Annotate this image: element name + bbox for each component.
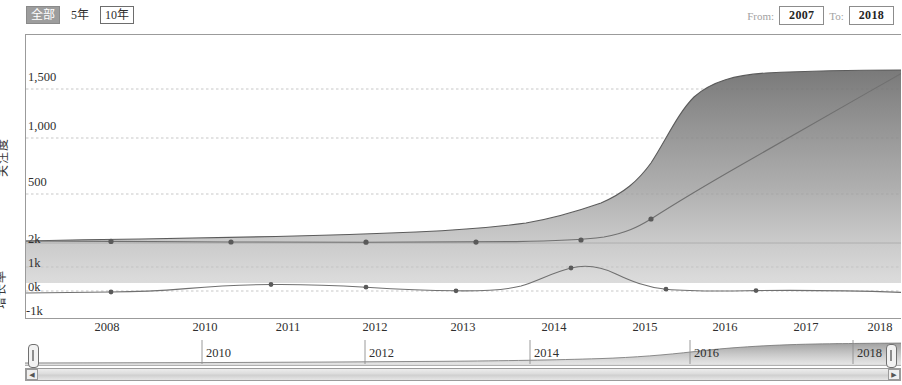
brush-label-2012: 2012 [369,346,394,361]
lower-y-axis-title: 增长率 [0,270,9,309]
lower-ytick-2k: 2k [28,232,41,247]
brush-label-2010: 2010 [206,346,231,361]
to-year-input[interactable]: 2018 [849,6,894,25]
xtick-2018: 2018 [868,320,893,335]
to-label: To: [829,10,844,22]
time-range-brush[interactable]: 2010 2012 2014 2016 2018 [25,340,901,366]
chart-canvas [26,35,901,319]
from-year-input[interactable]: 2007 [779,6,824,25]
lower-ytick-0k: 0k [28,280,41,295]
brush-label-2016: 2016 [694,346,719,361]
from-label: From: [747,10,774,22]
range-button-5y[interactable]: 5年 [66,6,94,24]
brush-canvas [25,340,901,366]
xtick-2016: 2016 [713,320,738,335]
xtick-2013: 2013 [451,320,476,335]
xtick-2012: 2012 [363,320,388,335]
scroll-left-arrow-icon[interactable]: ◀ [26,369,38,380]
chart-plot-area[interactable] [25,34,901,319]
xtick-2014: 2014 [542,320,567,335]
upper-ytick-500: 500 [28,175,47,190]
upper-y-axis-title: 关注度 [0,138,11,177]
brush-right-handle[interactable] [886,344,897,368]
scroll-right-arrow-icon[interactable]: ▶ [888,369,900,380]
brush-label-2014: 2014 [534,346,559,361]
horizontal-scrollbar[interactable]: ◀ ▶ [25,368,901,381]
chart-toolbar: 全部 5年 10年 From: 2007 To: 2018 [0,0,902,28]
attention-area-series [26,70,901,283]
lower-ytick-1k: 1k [28,256,41,271]
upper-ytick-1000: 1,000 [28,119,56,134]
xtick-2015: 2015 [633,320,658,335]
date-range-control: From: 2007 To: 2018 [747,6,894,25]
brush-left-handle[interactable] [28,344,39,368]
lower-ytick-minus1k: -1k [26,304,43,319]
xtick-2011: 2011 [276,320,301,335]
range-button-10y[interactable]: 10年 [100,6,134,24]
range-button-all[interactable]: 全部 [26,6,60,24]
upper-ytick-1500: 1,500 [28,70,56,85]
brush-label-2018: 2018 [857,346,882,361]
xtick-2017: 2017 [794,320,819,335]
xtick-2010: 2010 [193,320,218,335]
range-button-group: 全部 5年 10年 [26,6,134,24]
xtick-2008: 2008 [95,320,120,335]
